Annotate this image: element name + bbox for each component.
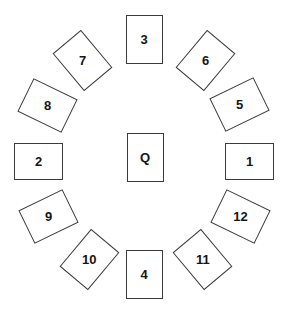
card-label: 10 [82, 253, 96, 266]
card-label: 1 [245, 154, 252, 167]
card-label: 4 [140, 268, 147, 281]
card-label: 9 [44, 209, 51, 222]
card-5[interactable]: 5 [209, 77, 269, 132]
card-label: 7 [78, 54, 85, 67]
card-4[interactable]: 4 [126, 250, 163, 299]
card-label: Q [140, 151, 150, 164]
card-1[interactable]: 1 [225, 143, 274, 180]
card-label: 6 [201, 53, 208, 66]
card-circle-diagram: 1 2 3 4 5 6 7 8 9 10 11 12 Q [0, 0, 286, 314]
card-10[interactable]: 10 [59, 228, 119, 289]
card-label: 3 [140, 33, 147, 46]
card-11[interactable]: 11 [172, 228, 232, 289]
card-label: 11 [195, 253, 209, 266]
card-7[interactable]: 7 [52, 29, 112, 90]
card-label: 8 [43, 99, 50, 112]
card-8[interactable]: 8 [17, 78, 77, 133]
card-3[interactable]: 3 [126, 15, 163, 64]
card-6[interactable]: 6 [175, 29, 235, 90]
card-label: 12 [233, 210, 247, 223]
card-label: 5 [235, 97, 242, 110]
card-9[interactable]: 9 [18, 189, 78, 244]
card-12[interactable]: 12 [210, 189, 270, 244]
card-2[interactable]: 2 [14, 143, 63, 180]
card-label: 2 [34, 154, 41, 167]
center-card-q[interactable]: Q [127, 133, 164, 182]
